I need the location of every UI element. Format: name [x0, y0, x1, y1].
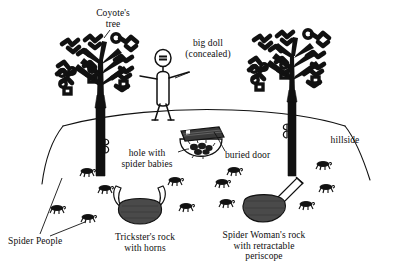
label-coyotes-tree: Coyote's tree [74, 8, 152, 29]
spider-person [98, 186, 113, 194]
big-doll-stick-figure [140, 50, 189, 121]
spider-person [50, 206, 65, 214]
coyotes-tree-leader [104, 30, 110, 38]
right-tree-trunk-marker [283, 124, 288, 138]
spider-person [316, 162, 331, 170]
illustration-scene: Coyote's tree big doll (concealed) hills… [0, 0, 395, 277]
spider-person [219, 200, 234, 208]
spider-person [179, 204, 194, 212]
label-hole-with-spider-babies: hole with spider babies [116, 148, 178, 169]
spider-person [299, 202, 314, 210]
label-buried-door: buried door [225, 150, 293, 161]
spider-person [168, 178, 183, 186]
spider-womans-rock [243, 177, 303, 222]
left-tree-trunk-marker [104, 139, 109, 153]
spider-person [80, 169, 95, 177]
spider-person [215, 180, 230, 188]
tricksters-rock [114, 186, 166, 224]
label-tricksters-rock: Trickster's rock with horns [100, 232, 190, 253]
label-spider-womans-rock: Spider Woman's rock with retractable per… [205, 230, 323, 262]
spider-person [319, 185, 334, 193]
label-hillside: hillside [320, 135, 370, 146]
label-big-doll: big doll (concealed) [172, 38, 244, 59]
spider-person [81, 215, 96, 223]
label-spider-people: Spider People [8, 236, 90, 247]
spider-person [227, 168, 242, 176]
